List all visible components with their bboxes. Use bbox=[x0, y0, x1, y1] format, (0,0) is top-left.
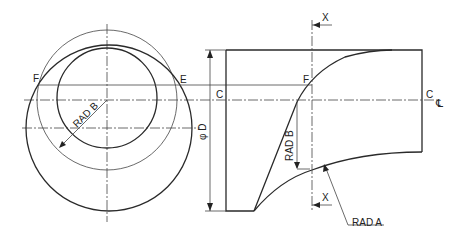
right-view: ℄ X X φ D RAD B RAD A C C F bbox=[197, 12, 443, 228]
rad-a-label: RAD A bbox=[352, 217, 382, 228]
section-label-top: X bbox=[322, 12, 329, 23]
centerline-symbol: ℄ bbox=[435, 97, 443, 109]
point-c-label-left: C bbox=[216, 89, 223, 100]
diameter-arrow-top bbox=[207, 50, 213, 58]
section-arrow-top-head bbox=[313, 22, 320, 28]
diameter-label: φ D bbox=[197, 124, 208, 140]
rad-b-label-right: RAD B bbox=[284, 130, 295, 161]
rad-b-dimension-arrow bbox=[294, 162, 300, 169]
left-view: RAD B F E bbox=[22, 24, 312, 222]
rad-b-label-left: RAD B bbox=[71, 100, 101, 130]
body-outline bbox=[226, 50, 422, 211]
point-f-label-left: F bbox=[33, 73, 39, 84]
section-label-bottom: X bbox=[322, 192, 329, 203]
section-arrow-bottom-head bbox=[313, 202, 320, 208]
point-e-label: E bbox=[180, 74, 187, 85]
rad-a-curve bbox=[254, 152, 422, 211]
point-c-label-right: C bbox=[426, 89, 433, 100]
intersection-curve bbox=[254, 50, 392, 211]
drawing-canvas: RAD B F E ℄ X X φ D RAD B bbox=[0, 0, 466, 245]
point-f-label-right: F bbox=[303, 74, 309, 85]
diameter-arrow-bottom bbox=[207, 203, 213, 211]
